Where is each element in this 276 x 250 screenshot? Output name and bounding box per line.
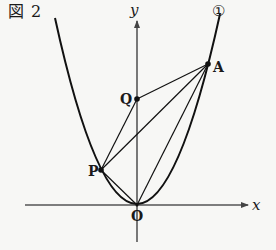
- figure-title: 図 2: [8, 4, 42, 20]
- segment-OA: [137, 64, 208, 205]
- point-O: [136, 204, 139, 207]
- curve-label-1: ①: [212, 4, 225, 19]
- segments: [101, 64, 208, 205]
- y-axis-label: y: [130, 3, 138, 18]
- point-A: [205, 61, 211, 67]
- segment-PA: [101, 64, 208, 170]
- segment-PO: [101, 170, 137, 205]
- segment-PQ: [101, 99, 137, 170]
- point-O-label: O: [131, 209, 143, 223]
- point-Q: [134, 96, 140, 102]
- figure-2: 図 2 y x ① A Q P O: [0, 0, 276, 250]
- x-axis-label: x: [252, 198, 260, 213]
- point-P-label: P: [88, 164, 99, 178]
- point-P: [98, 167, 104, 173]
- point-A-label: A: [213, 60, 224, 74]
- point-Q-label: Q: [120, 92, 132, 106]
- segment-QA: [137, 64, 208, 99]
